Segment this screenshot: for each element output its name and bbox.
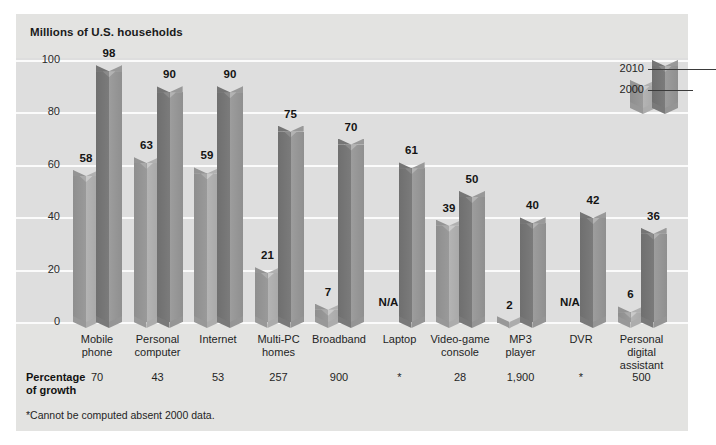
bar-2010-0 <box>96 65 122 328</box>
bar-top-right <box>351 139 364 145</box>
bar-top-left <box>315 304 328 310</box>
bar-face-left <box>96 71 109 322</box>
bar-face-right <box>109 71 122 322</box>
growth-value: 43 <box>128 371 188 383</box>
y-axis-tick: 100 <box>20 53 60 65</box>
bar-2010-9 <box>641 228 667 328</box>
bar-top-left <box>459 191 472 197</box>
bar-top-left <box>278 126 291 132</box>
growth-value: 70 <box>67 371 127 383</box>
y-axis-tick: 60 <box>20 158 60 170</box>
gridline <box>16 60 688 62</box>
bar-top-right <box>593 212 606 218</box>
category-label: Multi-PC homes <box>245 333 313 359</box>
legend-label-2000: 2000 <box>592 83 644 95</box>
growth-value: 500 <box>612 371 672 383</box>
bar-face-right <box>654 234 667 322</box>
bar-top-right <box>291 126 304 132</box>
growth-value: 1,900 <box>491 371 551 383</box>
footnote: *Cannot be computed absent 2000 data. <box>26 409 215 421</box>
y-axis-tick: 80 <box>20 105 60 117</box>
bar-face-right <box>170 92 183 322</box>
bar-top-left <box>436 220 449 226</box>
bar-face-right <box>291 132 304 323</box>
y-axis-tick: 0 <box>20 315 60 327</box>
bar-top-left <box>520 217 533 223</box>
growth-value: 53 <box>188 371 248 383</box>
bar-bottom-left <box>497 316 510 328</box>
bar-top-left <box>134 157 147 163</box>
y-axis-tick: 40 <box>20 210 60 222</box>
bar-face-right <box>665 66 678 108</box>
bar-face-left <box>580 218 593 322</box>
bar-value-label-2010: 75 <box>268 108 314 120</box>
category-label: Broadband <box>305 333 373 346</box>
bar-face-left <box>641 234 654 322</box>
category-label: Personal digital assistant <box>608 333 676 372</box>
bar-face-left <box>194 173 207 322</box>
growth-value: 28 <box>430 371 490 383</box>
bar-2010-1 <box>157 86 183 328</box>
bar-face-left <box>436 226 449 322</box>
category-label: Personal computer <box>124 333 192 359</box>
bar-top-left <box>618 306 631 312</box>
bar-value-label-2010: 90 <box>207 68 253 80</box>
growth-value: * <box>370 371 430 383</box>
bar-face-left <box>217 92 230 322</box>
bar-top-left <box>194 167 207 173</box>
bar-2010-8 <box>580 212 606 328</box>
bar-value-label-2010: 50 <box>449 173 495 185</box>
bar-value-label-2010: 61 <box>389 144 435 156</box>
legend-leader-line <box>648 69 716 70</box>
category-label: MP3 player <box>487 333 555 359</box>
bar-2010-2 <box>217 86 243 328</box>
bar-face-right <box>593 218 606 322</box>
legend-leader-line <box>648 90 693 91</box>
growth-value: 257 <box>249 371 309 383</box>
bar-face-left <box>652 66 665 108</box>
bar-face-left <box>73 176 86 322</box>
bar-value-label-2010: 98 <box>86 47 132 59</box>
bar-top-left <box>652 60 665 66</box>
category-label: Video-game console <box>426 333 494 359</box>
bar-top-right <box>654 228 667 234</box>
bar-value-label-2010: 40 <box>510 199 556 211</box>
category-label: Laptop <box>366 333 434 346</box>
bar-2010-5 <box>399 162 425 328</box>
bar-value-label-2010: 42 <box>570 194 616 206</box>
bar-top-left <box>255 267 268 273</box>
bar-face-left <box>157 92 170 322</box>
bar-top-right <box>533 217 546 223</box>
bar-top-left <box>399 162 412 168</box>
category-label: Internet <box>184 333 252 346</box>
bar-face-right <box>533 223 546 322</box>
bar-face-right <box>351 145 364 322</box>
y-axis-title: Millions of U.S. households <box>30 26 183 38</box>
bar-face-left <box>399 168 412 322</box>
bar-face-left <box>459 197 472 322</box>
bar-value-label-2010: 70 <box>328 121 374 133</box>
bar-face-right <box>472 197 485 322</box>
growth-value: 900 <box>309 371 369 383</box>
bar-face-right <box>412 168 425 322</box>
bar-top-left <box>73 170 86 176</box>
bar-top-right <box>665 60 678 66</box>
bar-2010-6 <box>459 191 485 328</box>
bar-value-label-2010: 36 <box>631 210 677 222</box>
bar-top-left <box>580 212 593 218</box>
category-label: DVR <box>547 333 615 346</box>
bar-value-label-2010: 90 <box>147 68 193 80</box>
bar-2010-4 <box>338 139 364 328</box>
bar-face-left <box>520 223 533 322</box>
bar-top-right <box>472 191 485 197</box>
bar-face-left <box>278 132 291 323</box>
bar-2010-3 <box>278 126 304 329</box>
legend-label-2010: 2010 <box>592 62 644 74</box>
bar-2010-7 <box>520 217 546 328</box>
bar-face-left <box>134 163 147 322</box>
bar-face-left <box>338 145 351 322</box>
bar-face-left <box>255 273 268 322</box>
bar-top-left <box>641 228 654 234</box>
category-label: Mobile phone <box>63 333 131 359</box>
